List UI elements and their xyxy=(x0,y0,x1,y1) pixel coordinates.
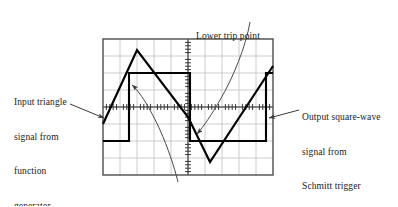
output-square-line-3: Schmitt trigger xyxy=(302,181,381,193)
input-triangle-line-3: function xyxy=(14,166,67,178)
lower-trip-point-line-1: Lower trip point xyxy=(196,31,260,43)
label-output-square-wave-signal: Output square-wave signal from Schmitt t… xyxy=(302,89,381,206)
output-square-line-2: signal from xyxy=(302,147,381,159)
input-triangle-line-2: signal from xyxy=(14,132,67,144)
label-lower-trip-point: Lower trip point xyxy=(196,8,260,66)
label-input-triangle-signal: Input triangle signal from function gene… xyxy=(14,74,67,206)
input-triangle-leader xyxy=(70,104,104,118)
input-triangle-line-4: generator xyxy=(14,201,67,207)
label-upper-trip-point: Upper trip point xyxy=(140,183,203,206)
figure-root: Lower trip point Input triangle signal f… xyxy=(0,0,398,206)
output-square-line-1: Output square-wave xyxy=(302,112,381,124)
input-triangle-line-1: Input triangle xyxy=(14,97,67,109)
